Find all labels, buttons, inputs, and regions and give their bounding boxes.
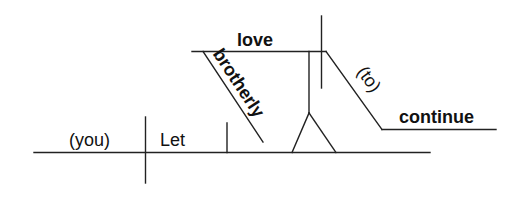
- pedestal-right-leg: [309, 113, 336, 153]
- word-verb: Let: [160, 130, 185, 150]
- word-infinitive-verb: continue: [399, 107, 474, 127]
- word-object-noun: love: [237, 30, 273, 50]
- word-infinitive-marker: (to): [353, 62, 385, 96]
- word-subject: (you): [69, 130, 110, 150]
- word-object-modifier: brotherly: [209, 45, 269, 121]
- sentence-diagram: (you) Let love continue brotherly (to): [0, 0, 527, 197]
- pedestal-left-leg: [292, 113, 309, 153]
